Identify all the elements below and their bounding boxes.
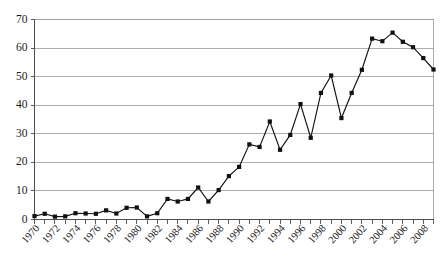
data-point-2001 bbox=[350, 91, 354, 95]
data-point-1986 bbox=[196, 185, 200, 189]
x-axis-label-1972: 1972 bbox=[40, 222, 62, 245]
data-point-1991 bbox=[247, 142, 251, 146]
y-axis-label-60: 60 bbox=[16, 41, 28, 53]
data-point-2009 bbox=[431, 67, 435, 71]
x-axis-label-1996: 1996 bbox=[285, 222, 307, 245]
y-axis-label-40: 40 bbox=[16, 98, 28, 110]
x-axis-label-2000: 2000 bbox=[326, 222, 348, 245]
x-axis-label-1998: 1998 bbox=[306, 222, 328, 245]
y-axis-label-70: 70 bbox=[16, 13, 28, 25]
y-axis-label-50: 50 bbox=[16, 70, 28, 82]
data-point-1972 bbox=[53, 215, 57, 219]
data-point-1975 bbox=[84, 211, 88, 215]
data-point-1999 bbox=[329, 73, 333, 77]
x-axis-label-1982: 1982 bbox=[142, 222, 164, 245]
data-point-1987 bbox=[206, 199, 210, 203]
x-axis-label-2004: 2004 bbox=[367, 222, 390, 246]
data-point-1990 bbox=[237, 165, 241, 169]
data-point-1988 bbox=[217, 188, 221, 192]
x-axis-label-1974: 1974 bbox=[60, 222, 83, 246]
x-axis-label-1986: 1986 bbox=[183, 222, 205, 245]
y-axis-label-30: 30 bbox=[16, 127, 28, 139]
x-axis-label-1978: 1978 bbox=[101, 222, 123, 245]
data-point-1989 bbox=[227, 174, 231, 178]
data-point-1982 bbox=[155, 211, 159, 215]
x-axis-label-2002: 2002 bbox=[347, 222, 369, 245]
data-point-2004 bbox=[380, 39, 384, 43]
y-axis-label-20: 20 bbox=[16, 155, 28, 167]
data-point-1984 bbox=[176, 199, 180, 203]
x-axis-label-1994: 1994 bbox=[265, 222, 288, 246]
series-line-path bbox=[35, 33, 434, 217]
x-axis-label-1990: 1990 bbox=[224, 222, 246, 245]
x-axis-label-2008: 2008 bbox=[408, 222, 430, 245]
data-point-1983 bbox=[165, 197, 169, 201]
data-point-1996 bbox=[298, 102, 302, 106]
x-axis-label-1992: 1992 bbox=[244, 222, 266, 245]
data-point-1974 bbox=[73, 211, 77, 215]
x-axis-label-1976: 1976 bbox=[81, 222, 103, 245]
x-axis-label-1984: 1984 bbox=[162, 222, 185, 246]
data-point-2005 bbox=[390, 31, 394, 35]
x-axis-label-1980: 1980 bbox=[122, 222, 144, 245]
data-point-1978 bbox=[114, 211, 118, 215]
data-point-1979 bbox=[124, 206, 128, 210]
data-point-2000 bbox=[339, 116, 343, 120]
data-point-1973 bbox=[63, 214, 67, 218]
x-axis-label-2006: 2006 bbox=[388, 222, 410, 245]
data-point-1976 bbox=[94, 212, 98, 216]
x-axis-label-1970: 1970 bbox=[19, 222, 41, 245]
data-point-1992 bbox=[257, 145, 261, 149]
data-point-1994 bbox=[278, 148, 282, 152]
data-point-1998 bbox=[319, 91, 323, 95]
data-point-1980 bbox=[135, 205, 139, 209]
data-point-2006 bbox=[401, 40, 405, 44]
data-point-2007 bbox=[411, 45, 415, 49]
data-point-2003 bbox=[370, 37, 374, 41]
data-point-1985 bbox=[186, 197, 190, 201]
data-point-1981 bbox=[145, 214, 149, 218]
data-point-1995 bbox=[288, 133, 292, 137]
y-axis-label-10: 10 bbox=[16, 184, 28, 196]
data-point-2002 bbox=[360, 68, 364, 72]
data-point-1993 bbox=[268, 119, 272, 123]
chart-container: 0102030405060701970197219741976197819801… bbox=[0, 0, 445, 257]
y-axis-label-0: 0 bbox=[22, 213, 28, 225]
data-point-1997 bbox=[309, 136, 313, 140]
data-point-2008 bbox=[421, 56, 425, 60]
data-point-1971 bbox=[43, 212, 47, 216]
data-point-1977 bbox=[104, 208, 108, 212]
data-point-1970 bbox=[32, 214, 36, 218]
x-axis-label-1988: 1988 bbox=[203, 222, 225, 245]
line-chart: 0102030405060701970197219741976197819801… bbox=[0, 0, 445, 257]
